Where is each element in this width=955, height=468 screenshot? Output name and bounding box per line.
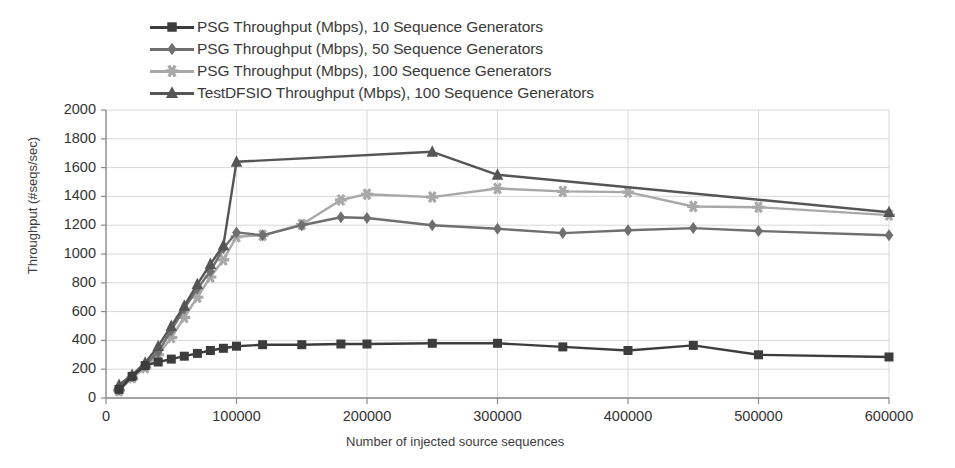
data-series bbox=[113, 183, 895, 396]
data-series bbox=[115, 339, 894, 394]
x-tick-label: 400000 bbox=[604, 408, 652, 424]
y-tick-label: 600 bbox=[34, 303, 96, 319]
x-tick-label: 200000 bbox=[343, 408, 391, 424]
marker-square bbox=[558, 342, 567, 351]
y-tick-label: 1800 bbox=[34, 130, 96, 146]
marker-square bbox=[193, 349, 202, 358]
marker-square bbox=[154, 358, 163, 367]
marker-diamond bbox=[754, 225, 763, 237]
data-series bbox=[113, 145, 894, 390]
x-axis-title: Number of injected source sequences bbox=[346, 434, 564, 449]
marker-diamond bbox=[689, 222, 698, 234]
x-tick-label: 300000 bbox=[473, 408, 521, 424]
marker-square bbox=[363, 340, 372, 349]
y-tick-label: 0 bbox=[34, 389, 96, 405]
marker-square bbox=[115, 385, 124, 394]
y-tick-label: 1200 bbox=[34, 216, 96, 232]
marker-square bbox=[885, 353, 894, 362]
marker-square bbox=[336, 340, 345, 349]
plot-area: Throughput (#seqs/sec) Number of injecte… bbox=[0, 0, 955, 468]
y-tick-label: 800 bbox=[34, 274, 96, 290]
marker-square bbox=[624, 346, 633, 355]
marker-square bbox=[128, 372, 137, 381]
marker-square bbox=[219, 344, 228, 353]
x-tick-label: 0 bbox=[102, 408, 110, 424]
marker-square bbox=[258, 340, 267, 349]
x-tick-label: 100000 bbox=[212, 408, 260, 424]
y-tick-label: 1600 bbox=[34, 159, 96, 175]
marker-square bbox=[493, 339, 502, 348]
marker-diamond bbox=[885, 229, 894, 241]
marker-diamond bbox=[337, 211, 346, 223]
marker-square bbox=[689, 341, 698, 350]
marker-diamond bbox=[558, 227, 567, 239]
marker-diamond bbox=[493, 223, 502, 235]
marker-diamond bbox=[428, 219, 437, 231]
marker-square bbox=[141, 361, 150, 370]
marker-square bbox=[754, 350, 763, 359]
marker-star bbox=[557, 186, 569, 196]
y-tick-label: 400 bbox=[34, 331, 96, 347]
marker-square bbox=[167, 355, 176, 364]
marker-star bbox=[426, 192, 438, 202]
chart-figure: PSG Throughput (Mbps), 10 Sequence Gener… bbox=[0, 0, 955, 468]
x-tick-label: 500000 bbox=[734, 408, 782, 424]
marker-square bbox=[206, 346, 215, 355]
marker-diamond bbox=[624, 224, 633, 236]
y-tick-label: 1000 bbox=[34, 245, 96, 261]
marker-square bbox=[232, 342, 241, 351]
chart-canvas bbox=[0, 0, 955, 468]
y-tick-label: 200 bbox=[34, 360, 96, 376]
marker-square bbox=[180, 352, 189, 361]
x-tick-label: 600000 bbox=[865, 408, 913, 424]
series-line bbox=[119, 217, 889, 390]
y-tick-label: 1400 bbox=[34, 187, 96, 203]
marker-square bbox=[428, 339, 437, 348]
data-series bbox=[115, 211, 894, 396]
y-tick-label: 2000 bbox=[34, 101, 96, 117]
marker-diamond bbox=[363, 212, 372, 224]
marker-star bbox=[687, 201, 699, 211]
series-line bbox=[119, 189, 889, 391]
marker-square bbox=[297, 340, 306, 349]
